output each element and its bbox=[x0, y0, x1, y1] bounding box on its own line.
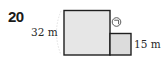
side-label-small-rectangle: 15 m bbox=[134, 39, 161, 50]
composite-figure bbox=[0, 0, 165, 59]
small-rectangle bbox=[110, 34, 131, 56]
side-label-large-square: 32 m bbox=[31, 27, 58, 38]
large-square bbox=[64, 11, 110, 56]
circled-marker-icon bbox=[112, 18, 121, 27]
